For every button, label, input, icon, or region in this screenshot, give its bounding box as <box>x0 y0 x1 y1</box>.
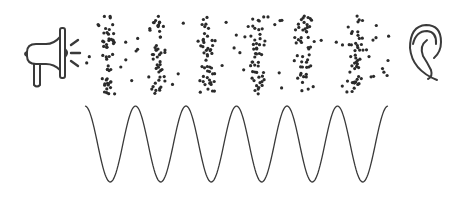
air-particles <box>85 15 390 96</box>
ear-icon <box>410 25 441 80</box>
sound-wave-diagram: Sound wave propagation from megaphone to… <box>0 0 463 198</box>
sine-wave <box>85 106 388 182</box>
diagram-canvas <box>0 0 463 198</box>
megaphone-icon <box>25 28 80 87</box>
